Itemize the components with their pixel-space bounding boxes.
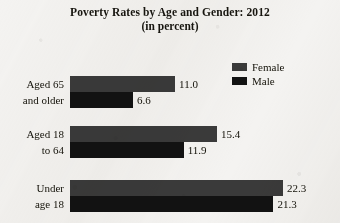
bar-value-female-aged-18-to-64: 15.4 bbox=[221, 126, 240, 142]
bar-male-under-age-18 bbox=[70, 196, 273, 212]
bar-male-aged-18-to-64 bbox=[70, 142, 184, 158]
category-label-line: Under bbox=[0, 180, 64, 196]
category-label-under-age-18: Under age 18 bbox=[0, 180, 64, 212]
bar-track-male: 11.9 bbox=[70, 142, 206, 158]
bar-track-female: 11.0 bbox=[70, 76, 198, 92]
bar-value-male-aged-18-to-64: 11.9 bbox=[188, 142, 207, 158]
bar-value-female-under-age-18: 22.3 bbox=[287, 180, 306, 196]
category-label-aged-18-to-64: Aged 18 to 64 bbox=[0, 126, 64, 158]
category-label-line: to 64 bbox=[0, 142, 64, 158]
bar-female-aged-18-to-64 bbox=[70, 126, 217, 142]
bar-male-aged-65-and-older bbox=[70, 92, 133, 108]
bar-track-female: 15.4 bbox=[70, 126, 240, 142]
bar-track-female: 22.3 bbox=[70, 180, 306, 196]
category-label-line: age 18 bbox=[0, 196, 64, 212]
chart-subtitle: (in percent) bbox=[0, 19, 340, 33]
chart-title: Poverty Rates by Age and Gender: 2012 bbox=[0, 5, 340, 19]
poverty-rates-bar-chart: Poverty Rates by Age and Gender: 2012 (i… bbox=[0, 0, 340, 223]
bar-value-female-aged-65-and-older: 11.0 bbox=[179, 76, 198, 92]
bar-group-aged-18-to-64: Aged 18 to 64 15.4 11.9 bbox=[0, 126, 340, 159]
category-label-aged-65-and-older: Aged 65 and older bbox=[0, 76, 64, 108]
plot-area: Aged 65 and older 11.0 6.6 Aged 18 to 64… bbox=[0, 70, 340, 223]
bar-female-under-age-18 bbox=[70, 180, 283, 196]
category-label-line: Aged 18 bbox=[0, 126, 64, 142]
bar-group-under-age-18: Under age 18 22.3 21.3 bbox=[0, 180, 340, 213]
category-label-line: and older bbox=[0, 92, 64, 108]
bar-group-aged-65-and-older: Aged 65 and older 11.0 6.6 bbox=[0, 76, 340, 109]
category-label-line: Aged 65 bbox=[0, 76, 64, 92]
chart-title-block: Poverty Rates by Age and Gender: 2012 (i… bbox=[0, 5, 340, 33]
bar-value-male-under-age-18: 21.3 bbox=[277, 196, 296, 212]
bar-track-male: 6.6 bbox=[70, 92, 151, 108]
bar-track-male: 21.3 bbox=[70, 196, 297, 212]
bar-female-aged-65-and-older bbox=[70, 76, 175, 92]
bar-value-male-aged-65-and-older: 6.6 bbox=[137, 92, 151, 108]
